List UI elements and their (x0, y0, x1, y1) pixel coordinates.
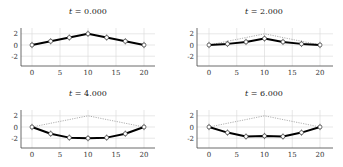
subplot-t6: 0510152020-2t = 6.000 (187, 89, 333, 159)
data-point-marker (30, 43, 34, 47)
x-tick-label: 0 (30, 69, 34, 77)
x-tick-label: 20 (316, 69, 325, 77)
x-tick-label: 0 (30, 151, 34, 159)
data-point-marker (318, 43, 322, 47)
y-tick-label: 0 (14, 124, 18, 132)
x-tick-label: 15 (288, 151, 297, 159)
data-point-marker (30, 125, 34, 129)
data-point-marker (86, 32, 90, 36)
data-point-marker (123, 132, 127, 136)
y-tick-label: -2 (187, 135, 194, 143)
subplot-title: t = 0.000 (69, 7, 107, 16)
data-point-marker (49, 39, 53, 43)
data-point-marker (207, 125, 211, 129)
subplot-t4: 0510152020-2t = 4.000 (11, 89, 155, 159)
data-point-marker (225, 131, 229, 135)
data-point-marker (142, 43, 146, 47)
data-point-marker (67, 136, 71, 140)
data-point-marker (281, 135, 285, 139)
subplot-t2: 0510152020-2t = 2.000 (187, 7, 333, 77)
subplot-title: t = 4.000 (69, 89, 107, 98)
data-point-marker (263, 37, 267, 41)
x-tick-label: 0 (207, 69, 211, 77)
data-point-marker (318, 125, 322, 129)
data-point-marker (142, 125, 146, 129)
y-tick-label: 2 (14, 30, 18, 38)
x-tick-label: 5 (58, 151, 62, 159)
x-tick-label: 15 (112, 69, 121, 77)
y-tick-label: 0 (190, 124, 194, 132)
x-tick-label: 5 (58, 69, 62, 77)
data-point-marker (244, 40, 248, 44)
data-point-marker (300, 131, 304, 135)
y-tick-label: 2 (190, 112, 194, 120)
data-point-marker (281, 40, 285, 44)
y-tick-label: 0 (190, 42, 194, 50)
x-tick-label: 15 (112, 151, 121, 159)
x-tick-label: 20 (316, 151, 325, 159)
data-point-marker (86, 136, 90, 140)
x-tick-label: 10 (84, 151, 93, 159)
x-tick-label: 10 (260, 151, 269, 159)
data-point-marker (263, 134, 267, 138)
x-tick-label: 0 (207, 151, 211, 159)
subplot-t0: 0510152020-2t = 0.000 (11, 7, 155, 77)
x-tick-label: 15 (288, 69, 297, 77)
x-tick-label: 5 (235, 69, 239, 77)
data-point-marker (105, 136, 109, 140)
x-tick-label: 5 (235, 151, 239, 159)
grid (197, 28, 333, 66)
subplot-title: t = 6.000 (245, 89, 283, 98)
data-point-marker (123, 39, 127, 43)
y-tick-label: -2 (11, 135, 18, 143)
data-point-marker (207, 43, 211, 47)
y-tick-label: 0 (14, 42, 18, 50)
y-tick-label: -2 (11, 53, 18, 61)
data-point-marker (67, 36, 71, 40)
data-point-marker (49, 132, 53, 136)
x-tick-label: 20 (140, 69, 149, 77)
data-point-marker (105, 36, 109, 40)
y-tick-label: -2 (187, 53, 194, 61)
y-tick-label: 2 (14, 112, 18, 120)
data-point-marker (225, 42, 229, 46)
x-tick-label: 20 (140, 151, 149, 159)
subplot-title: t = 2.000 (245, 7, 283, 16)
y-tick-label: 2 (190, 30, 194, 38)
x-tick-label: 10 (84, 69, 93, 77)
grid (21, 110, 155, 148)
x-tick-label: 10 (260, 69, 269, 77)
figure: 0510152020-2t = 0.000 0510152020-2t = 2.… (0, 0, 343, 167)
data-point-marker (244, 135, 248, 139)
data-point-marker (300, 42, 304, 46)
